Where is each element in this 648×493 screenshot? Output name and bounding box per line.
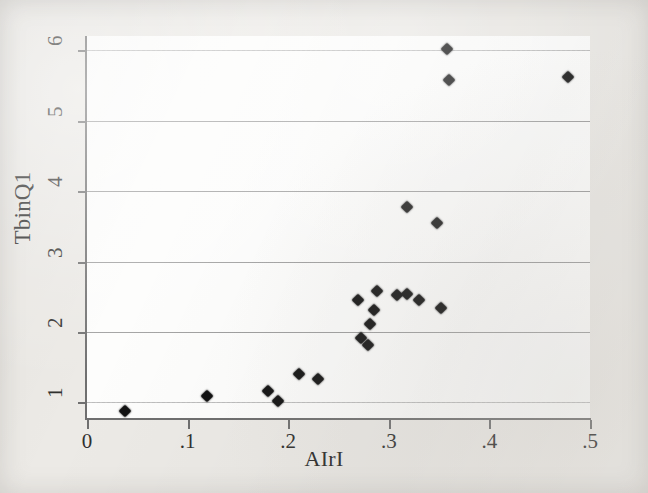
x-tick-0p3 <box>389 420 391 429</box>
x-tick-0p5 <box>590 420 592 429</box>
y-tick-5 <box>78 121 87 123</box>
data-point <box>441 42 454 55</box>
gridline-y-2 <box>87 332 590 333</box>
data-point <box>367 304 380 317</box>
data-point <box>351 293 364 306</box>
y-tick-label-3: 3 <box>45 247 66 277</box>
y-tick-4 <box>78 191 87 193</box>
x-tick-0p4 <box>489 420 491 429</box>
x-axis-title: AIrI <box>0 447 648 470</box>
gridline-y-5 <box>87 121 590 122</box>
x-tick-0p2 <box>288 420 290 429</box>
y-axis-line <box>85 36 87 420</box>
y-tick-label-5: 5 <box>45 106 66 136</box>
y-tick-1 <box>78 402 87 404</box>
data-point <box>431 217 444 230</box>
gridline-y-6 <box>87 50 590 51</box>
gridline-y-3 <box>87 262 590 263</box>
data-point <box>435 302 448 315</box>
data-point <box>370 285 383 298</box>
data-point <box>119 405 132 418</box>
y-tick-3 <box>78 262 87 264</box>
y-tick-label-1: 1 <box>45 388 66 418</box>
data-point <box>200 390 213 403</box>
data-point <box>262 384 275 397</box>
y-tick-label-6: 6 <box>45 36 66 66</box>
y-axis-title: TbinQ1 <box>11 123 35 293</box>
y-tick-2 <box>78 332 87 334</box>
scatter-plot-figure: 123456 0.1.2.3.4.5 TbinQ1 AIrI <box>0 0 648 493</box>
gridline-y-4 <box>87 191 590 192</box>
x-tick-0 <box>87 420 89 429</box>
data-point <box>561 71 574 84</box>
y-tick-label-4: 4 <box>45 177 66 207</box>
data-point <box>293 368 306 381</box>
x-tick-0p1 <box>188 420 190 429</box>
data-point <box>272 395 285 408</box>
data-point <box>401 288 414 301</box>
gridline-y-1 <box>87 402 590 403</box>
data-point <box>443 74 456 87</box>
data-point <box>413 294 426 307</box>
data-point <box>312 372 325 385</box>
plot-area <box>87 36 590 418</box>
y-tick-6 <box>78 50 87 52</box>
x-axis-line <box>85 418 591 420</box>
data-point <box>363 318 376 331</box>
y-tick-label-2: 2 <box>45 318 66 348</box>
data-point <box>401 201 414 214</box>
